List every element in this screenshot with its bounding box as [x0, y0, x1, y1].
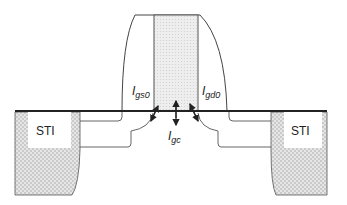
sti-left-label: STI: [36, 124, 55, 138]
sti-right-label: STI: [291, 124, 310, 138]
igs0-label: Igs0: [132, 84, 150, 100]
drain-region: [198, 112, 271, 147]
igc-label: Igc: [168, 129, 181, 145]
igd0-label: Igd0: [202, 84, 220, 100]
source-region: [80, 112, 153, 147]
mosfet-gate-leakage-diagram: STI STI Igs0 Igd0 Igc: [0, 0, 347, 205]
gate-electrode: [154, 15, 198, 111]
